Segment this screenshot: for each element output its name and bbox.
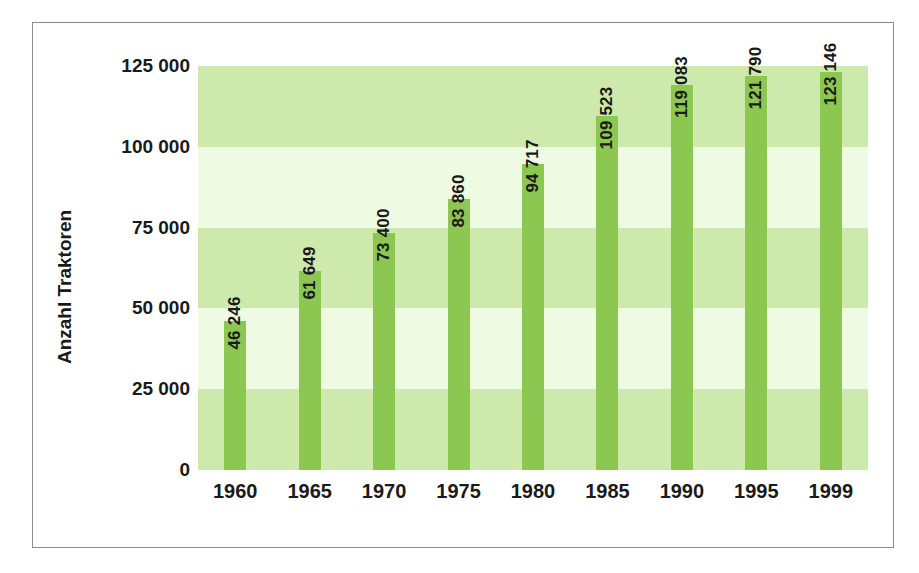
chart-figure: Anzahl Traktoren 025 00050 00075 000100 …	[0, 0, 919, 573]
bar: 46 246	[224, 321, 246, 470]
bar-value-label: 73 400	[374, 208, 394, 261]
bar: 94 717	[522, 164, 544, 470]
x-axis-tick-label: 1990	[660, 480, 705, 503]
x-axis-tick-label: 1985	[585, 480, 630, 503]
bar-value-text: 121 790	[746, 47, 766, 110]
bar-value-label: 94 717	[523, 139, 543, 192]
bar-value-label: 109 523	[597, 87, 617, 150]
y-axis-tick-label: 75 000	[132, 217, 190, 239]
y-axis-title: Anzahl Traktoren	[48, 137, 82, 437]
y-axis-tick-labels: 025 00050 00075 000100 000125 000	[96, 0, 190, 573]
bar-value-label: 83 860	[449, 174, 469, 227]
bar: 121 790	[745, 76, 767, 470]
bar-value-text: 46 246	[225, 296, 245, 349]
bar-value-label: 61 649	[300, 246, 320, 299]
bar-value-text: 83 860	[449, 174, 469, 227]
y-axis-tick-label: 100 000	[121, 136, 190, 158]
bar: 119 083	[671, 85, 693, 470]
bar: 61 649	[299, 271, 321, 470]
x-axis-tick-label: 1999	[809, 480, 854, 503]
bar: 109 523	[596, 116, 618, 470]
y-axis-tick-label: 25 000	[132, 378, 190, 400]
bar-value-label: 119 083	[672, 56, 692, 118]
bar-value-text: 123 146	[821, 43, 841, 106]
y-axis-tick-label: 125 000	[121, 55, 190, 77]
x-axis-tick-labels: 196019651970197519801985199019951999	[198, 480, 868, 520]
bar-value-label: 123 146	[821, 43, 841, 106]
x-axis-tick-label: 1995	[734, 480, 779, 503]
bar: 83 860	[448, 199, 470, 470]
bar: 123 146	[820, 72, 842, 470]
bar-value-label: 121 790	[746, 47, 766, 110]
bar-value-text: 94 717	[523, 139, 543, 192]
bar-value-text: 73 400	[374, 208, 394, 261]
x-axis-tick-label: 1965	[287, 480, 332, 503]
bar: 73 400	[373, 233, 395, 470]
y-axis-title-label: Anzahl Traktoren	[54, 209, 76, 363]
x-axis-tick-label: 1975	[436, 480, 481, 503]
x-axis-tick-label: 1960	[213, 480, 258, 503]
y-axis-tick-label: 50 000	[132, 297, 190, 319]
x-axis-tick-label: 1970	[362, 480, 407, 503]
x-axis-tick-label: 1980	[511, 480, 556, 503]
bar-value-text: 61 649	[300, 246, 320, 299]
plot-area: 46 24661 64973 40083 86094 717109 523119…	[198, 66, 868, 470]
bar-value-text: 109 523	[597, 87, 617, 150]
y-axis-tick-label: 0	[179, 459, 190, 481]
bar-value-label: 46 246	[225, 296, 245, 349]
plot-band	[198, 66, 868, 147]
bar-value-text: 119 083	[672, 56, 692, 118]
